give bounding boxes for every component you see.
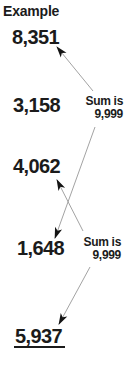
page-title: Example [3, 3, 59, 19]
sum-label-2: Sum is 9,999 [78, 236, 121, 262]
arrow-sum-label-1-to-8,351 [57, 47, 93, 91]
sum-label-1: Sum is 9,999 [80, 95, 123, 121]
sum-example-diagram: Example 8,351 3,158 4,062 1,648 5,937 Su… [0, 0, 130, 365]
arrow-sum-label-2-to-5,937 [59, 267, 90, 324]
number-5937-underlined: 5,937 [14, 326, 65, 348]
arrow-sum-label-1-to-1,648 [55, 127, 95, 238]
number-1648: 1,648 [17, 238, 64, 258]
sum-label-2-value: 9,999 [78, 249, 121, 262]
number-4062: 4,062 [13, 156, 60, 176]
number-8351: 8,351 [12, 27, 59, 47]
sum-label-1-value: 9,999 [80, 108, 123, 121]
arrows-layer [0, 0, 130, 365]
number-3158: 3,158 [13, 95, 60, 115]
arrow-sum-label-2-to-4,062 [57, 180, 83, 231]
